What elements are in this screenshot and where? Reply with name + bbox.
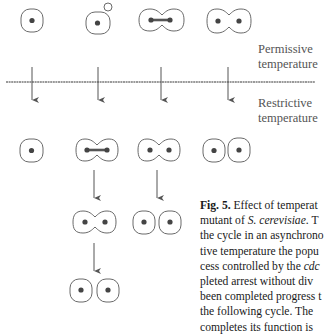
caption-text: cess controlled by the: [200, 260, 304, 273]
caption-line: the cycle in an asynchrono: [200, 228, 328, 243]
cell-unbudded-icon: [21, 9, 43, 32]
cell-unbudded-icon: [20, 139, 43, 162]
caption-line: tive temperature the popu: [200, 244, 328, 259]
label-line: Permissive: [258, 42, 318, 57]
cell-binucleate-icon: [138, 139, 180, 161]
caption-line: mutant of S. cerevisiae. T: [200, 213, 328, 228]
row-permissive: [21, 3, 251, 34]
cell-binucleate-icon: [73, 211, 116, 233]
caption-line: the following cycle. The: [200, 304, 328, 319]
row-4: [70, 279, 119, 302]
caption-text: mutant of: [200, 214, 248, 227]
label-line: temperature: [258, 57, 318, 72]
gene-name: cdc: [304, 260, 320, 273]
cell-dumbbell-nucleus-icon: [139, 9, 184, 31]
caption-text: . T: [306, 214, 319, 227]
caption-line: cess controlled by the cdc: [200, 259, 328, 274]
figure-label: Fig. 5.: [200, 199, 231, 212]
caption-line: completes its function is: [200, 320, 328, 335]
restrictive-temperature-label: Restrictive temperature: [258, 96, 318, 126]
cell-dumbbell-nucleus-icon: [76, 139, 118, 161]
shift-arrows: [32, 67, 228, 100]
permissive-temperature-label: Permissive temperature: [258, 42, 318, 72]
row-3: [73, 211, 181, 234]
row-restrictive: [20, 138, 250, 162]
cells-separated-icon: [133, 211, 181, 234]
cells-separated-icon: [70, 279, 119, 302]
progress-arrows-row2: [94, 170, 157, 198]
label-line: Restrictive: [258, 96, 318, 111]
caption-line: pleted arrest without div: [200, 274, 328, 289]
cells-separated-icon: [203, 138, 250, 162]
species-name: S. cerevisiae: [248, 214, 306, 227]
caption-line: been completed progress t: [200, 289, 328, 304]
cell-binucleate-icon: [207, 9, 251, 33]
caption-line: Fig. 5. Effect of temperat: [200, 198, 328, 213]
label-line: temperature: [258, 111, 318, 126]
figure-caption: Fig. 5. Effect of temperat mutant of S. …: [200, 198, 328, 335]
caption-text: Effect of temperat: [231, 199, 318, 212]
cell-budding-icon: [86, 3, 112, 34]
